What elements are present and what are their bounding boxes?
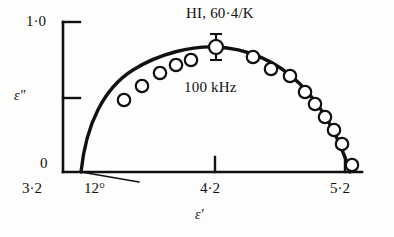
y-axis xyxy=(63,22,80,172)
data-point xyxy=(336,138,348,150)
x-axis-title: ε′ xyxy=(195,208,204,222)
data-point xyxy=(309,98,321,110)
cole-cole-chart-figure: HI, 60·4/K 100 kHz 1·0 0 ε″ 3·2 12° 4·2 … xyxy=(0,0,394,237)
y-tick-label-zero: 0 xyxy=(40,156,48,171)
data-point xyxy=(299,86,311,98)
chart-title: HI, 60·4/K xyxy=(186,6,254,21)
data-point xyxy=(136,80,148,92)
y-axis-title: ε″ xyxy=(14,89,25,103)
x-axis xyxy=(63,157,362,172)
data-point xyxy=(209,40,223,54)
data-point xyxy=(265,63,277,75)
x-tick-label-2: 4·2 xyxy=(200,181,220,196)
data-point xyxy=(118,94,130,106)
data-point xyxy=(154,67,166,79)
x-tick-label-3: 5·2 xyxy=(330,181,350,196)
data-point xyxy=(319,111,331,123)
depression-angle-label: 12° xyxy=(84,181,105,196)
data-point xyxy=(185,54,197,66)
chart-canvas xyxy=(0,0,394,237)
cole-cole-arc xyxy=(81,47,350,172)
data-point xyxy=(170,59,182,71)
data-point xyxy=(247,51,259,63)
data-point xyxy=(346,159,358,171)
data-point xyxy=(328,124,340,136)
data-point xyxy=(284,70,296,82)
y-tick-label-top: 1·0 xyxy=(26,14,46,29)
frequency-annotation: 100 kHz xyxy=(184,80,237,95)
x-tick-label-1: 3·2 xyxy=(22,181,42,196)
